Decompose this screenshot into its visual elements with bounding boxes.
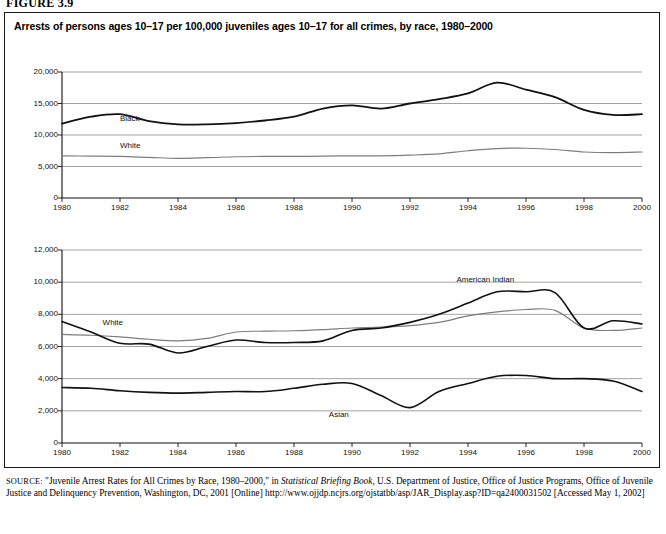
x-tick-label: 1992 — [399, 448, 421, 457]
x-tick-label: 1982 — [109, 448, 131, 457]
x-tick-label: 1994 — [457, 448, 479, 457]
y-tick-label: 0 — [18, 193, 58, 202]
series-label-asian: Asian — [329, 410, 349, 419]
x-tick-label: 1996 — [515, 448, 537, 457]
x-tick-label: 1984 — [167, 203, 189, 212]
x-tick-label: 1986 — [225, 448, 247, 457]
x-tick-label: 1982 — [109, 203, 131, 212]
y-tick-label: 4,000 — [18, 374, 58, 383]
x-tick-label: 1998 — [573, 203, 595, 212]
y-tick-label: 0 — [18, 438, 58, 447]
y-tick-label: 15,000 — [18, 99, 58, 108]
x-tick-label: 1980 — [51, 448, 73, 457]
x-tick-label: 1986 — [225, 203, 247, 212]
y-tick-label: 8,000 — [18, 309, 58, 318]
x-tick-label: 1988 — [283, 448, 305, 457]
figure-number: FIGURE 3.9 — [6, 0, 74, 11]
source-note: SOURCE: "Juvenile Arrest Rates for All C… — [6, 476, 658, 499]
x-tick-label: 1990 — [341, 448, 363, 457]
y-tick-label: 2,000 — [18, 406, 58, 415]
series-label-white: White — [103, 318, 123, 327]
series-label-american-indian: American Indian — [456, 275, 514, 284]
x-tick-label: 1988 — [283, 203, 305, 212]
y-tick-label: 10,000 — [18, 130, 58, 139]
source-publication-title: Statistical Briefing Book — [281, 476, 372, 486]
source-keyword: SOURCE: — [6, 477, 43, 486]
series-label-black: Black — [120, 114, 140, 123]
x-tick-label: 1996 — [515, 203, 537, 212]
x-tick-label: 1998 — [573, 448, 595, 457]
x-tick-label: 1990 — [341, 203, 363, 212]
y-tick-label: 5,000 — [18, 162, 58, 171]
x-tick-label: 2000 — [631, 203, 653, 212]
figure-frame — [4, 12, 660, 468]
series-label-white: White — [120, 141, 140, 150]
y-tick-label: 20,000 — [18, 67, 58, 76]
page-title: Arrests of persons ages 10–17 per 100,00… — [14, 20, 644, 32]
y-tick-label: 12,000 — [18, 245, 58, 254]
x-tick-label: 1992 — [399, 203, 421, 212]
x-tick-label: 1994 — [457, 203, 479, 212]
source-text-part1: "Juvenile Arrest Rates for All Crimes by… — [43, 476, 281, 486]
x-tick-label: 1984 — [167, 448, 189, 457]
y-tick-label: 10,000 — [18, 277, 58, 286]
x-tick-label: 1980 — [51, 203, 73, 212]
x-tick-label: 2000 — [631, 448, 653, 457]
y-tick-label: 6,000 — [18, 342, 58, 351]
